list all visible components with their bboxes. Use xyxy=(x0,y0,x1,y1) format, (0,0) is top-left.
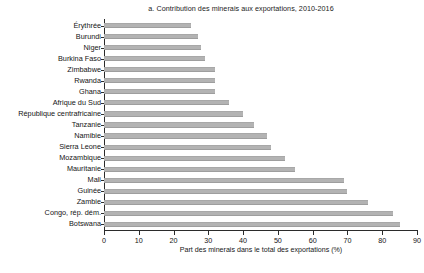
bar xyxy=(104,122,254,127)
x-axis-tick xyxy=(139,231,140,235)
bar xyxy=(104,67,215,72)
plot-area xyxy=(104,20,417,230)
y-axis-label: Zambie xyxy=(0,198,101,206)
y-axis-label: République centrafricaine xyxy=(0,110,101,118)
y-axis-label: Congo, rép. dém. xyxy=(0,209,101,217)
x-axis-tick-label: 90 xyxy=(413,236,421,245)
y-axis-label: Afrique du Sud xyxy=(0,99,101,107)
x-axis-line xyxy=(104,230,418,231)
x-axis-tick xyxy=(313,231,314,235)
x-axis-tick xyxy=(104,231,105,235)
bar xyxy=(104,200,368,205)
x-axis-tick-label: 10 xyxy=(135,236,143,245)
y-axis-label: Mozambique xyxy=(0,154,101,162)
x-axis-tick-label: 30 xyxy=(204,236,212,245)
x-axis-tick-label: 50 xyxy=(274,236,282,245)
bar xyxy=(104,78,215,83)
x-axis-tick xyxy=(174,231,175,235)
bar xyxy=(104,178,344,183)
y-axis-label: Sierra Leone xyxy=(0,143,101,151)
x-axis-tick xyxy=(382,231,383,235)
y-axis-label: Érythrée xyxy=(0,22,101,30)
bar xyxy=(104,56,205,61)
y-axis-label: Ghana xyxy=(0,88,101,96)
y-axis-label: Guinée xyxy=(0,187,101,195)
bar xyxy=(104,156,285,161)
x-axis-tick xyxy=(208,231,209,235)
bar xyxy=(104,211,393,216)
bar xyxy=(104,100,229,105)
x-axis-tick-label: 0 xyxy=(102,236,106,245)
bar xyxy=(104,222,400,227)
chart-title: a. Contribution des minerais aux exporta… xyxy=(0,4,424,13)
y-axis-label: Niger xyxy=(0,44,101,52)
x-axis-tick xyxy=(278,231,279,235)
bar xyxy=(104,34,198,39)
chart-figure: a. Contribution des minerais aux exporta… xyxy=(0,0,424,273)
x-axis-tick xyxy=(347,231,348,235)
x-axis-tick-label: 80 xyxy=(378,236,386,245)
bar xyxy=(104,145,271,150)
y-axis-category-labels: ÉrythréeBurundiNigerBurkina FasoZimbabwe… xyxy=(0,20,101,230)
x-axis-tick-label: 60 xyxy=(309,236,317,245)
bar xyxy=(104,167,295,172)
x-axis-tick xyxy=(417,231,418,235)
bar xyxy=(104,23,191,28)
y-axis-label: Mauritanie xyxy=(0,165,101,173)
bar xyxy=(104,45,201,50)
y-axis-label: Tanzanie xyxy=(0,121,101,129)
x-axis-tick-label: 40 xyxy=(239,236,247,245)
x-axis-tick-label: 20 xyxy=(170,236,178,245)
x-axis-tick xyxy=(243,231,244,235)
y-axis-label: Mali xyxy=(0,176,101,184)
y-axis-label: Rwanda xyxy=(0,77,101,85)
bar xyxy=(104,89,215,94)
bar xyxy=(104,111,243,116)
y-axis-label: Namibie xyxy=(0,132,101,140)
y-axis-label: Burundi xyxy=(0,33,101,41)
y-axis-label: Botswana xyxy=(0,220,101,228)
bar xyxy=(104,189,347,194)
x-axis-title: Part des minerais dans le total des expo… xyxy=(104,246,418,254)
x-axis-tick-label: 70 xyxy=(343,236,351,245)
bar xyxy=(104,133,267,138)
y-axis-label: Zimbabwe xyxy=(0,66,101,74)
y-axis-label: Burkina Faso xyxy=(0,55,101,63)
